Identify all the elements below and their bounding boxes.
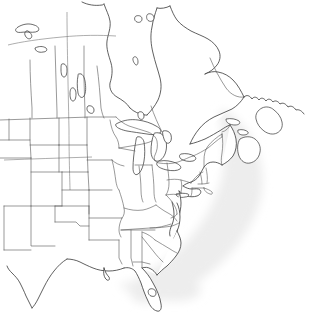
north-america-outline-map	[0, 0, 309, 315]
hudson-bay-island-east	[147, 14, 154, 22]
map-figure	[0, 0, 309, 315]
nova-scotia	[238, 137, 261, 163]
reindeer-lake	[61, 64, 67, 77]
lake-athabasca	[35, 47, 47, 53]
lake-okeechobee	[148, 289, 156, 297]
long-island	[176, 193, 189, 197]
lake-nipigon	[138, 112, 144, 120]
hudson-bay-island-west	[135, 16, 142, 23]
lake-manitoba	[70, 88, 76, 101]
